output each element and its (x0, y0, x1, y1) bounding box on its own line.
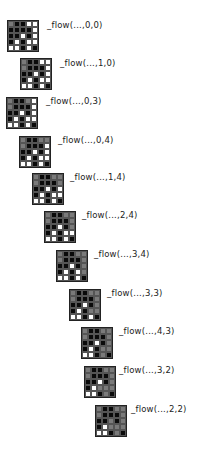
grid-cell (94, 314, 100, 320)
flow-step-label: _flow(...,1,4) (70, 172, 126, 182)
flow-step-label: _flow(...,3,3) (107, 288, 163, 298)
flow-step-label: _flow(...,3,4) (94, 249, 150, 259)
flow-step-grid (7, 20, 39, 52)
grid-cell (32, 45, 38, 51)
flow-step-label: _flow(...,0,4) (58, 135, 114, 145)
flow-step-grid (32, 173, 64, 205)
flow-step-grid (69, 289, 101, 321)
grid-cell (106, 352, 112, 358)
flow-step-grid (56, 250, 88, 282)
flow-step-label: _flow(...,4,3) (119, 326, 175, 336)
flow-step-grid (6, 97, 38, 129)
flow-step-grid (20, 58, 52, 90)
flow-step-grid (44, 211, 76, 243)
flow-step-grid (81, 327, 113, 359)
flow-step-grid (84, 366, 116, 398)
grid-cell (44, 161, 50, 167)
flow-step-label: _flow(...,0,3) (46, 96, 102, 106)
flow-step-label: _flow(...,2,2) (131, 404, 187, 414)
grid-cell (57, 198, 63, 204)
flow-step-label: _flow(...,2,4) (82, 210, 138, 220)
grid-cell (31, 122, 37, 128)
flow-step-grid (95, 405, 127, 437)
grid-cell (109, 391, 115, 397)
grid-cell (120, 430, 126, 436)
grid-cell (45, 83, 51, 89)
flow-step-label: _flow(...,3,2) (119, 365, 175, 375)
flow-step-label: _flow(...,0,0) (47, 20, 103, 30)
flow-step-label: _flow(...,1,0) (60, 58, 116, 68)
grid-cell (81, 275, 87, 281)
grid-cell (69, 236, 75, 242)
flow-step-grid (19, 136, 51, 168)
